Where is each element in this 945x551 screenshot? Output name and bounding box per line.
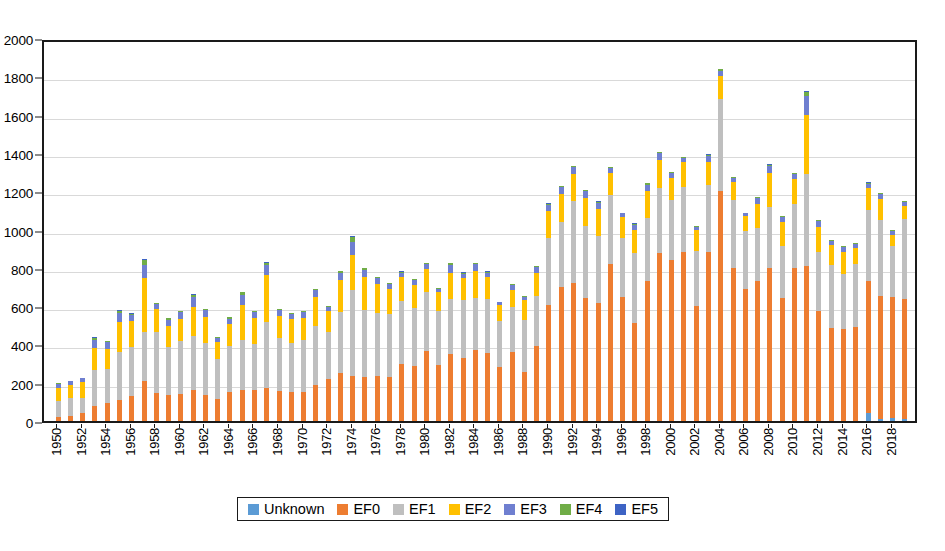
x-tick-label: 1990 — [540, 428, 555, 456]
bar-segment-EF2 — [461, 278, 466, 300]
bar-segment-EF0 — [227, 392, 232, 421]
x-tick-label: 2010 — [785, 428, 800, 456]
bar-segment-EF3 — [313, 290, 318, 297]
bar-segment-EF2 — [399, 277, 404, 301]
bar-segment-EF2 — [473, 271, 478, 298]
bar-segment-EF3 — [546, 205, 551, 212]
bar-segment-EF2 — [841, 252, 846, 274]
bar-segment-EF3 — [203, 310, 208, 317]
bar-segment-EF2 — [362, 277, 367, 310]
x-tick-label: 1958 — [147, 428, 162, 456]
legend-item-EF2[interactable]: EF2 — [449, 501, 492, 517]
bar-segment-EF2 — [706, 162, 711, 185]
y-tick-label: 2000 — [4, 33, 33, 48]
bar-2002 — [694, 226, 699, 421]
bar-segment-EF1 — [559, 222, 564, 287]
bar-segment-EF0 — [240, 390, 245, 421]
bar-1994 — [596, 201, 601, 421]
x-tick-label: 2000 — [663, 428, 678, 456]
bar-segment-EF2 — [375, 284, 380, 313]
bar-segment-EF1 — [522, 320, 527, 372]
bar-segment-EF2 — [497, 305, 502, 321]
bar-segment-EF2 — [350, 255, 355, 289]
bar-segment-EF2 — [816, 227, 821, 252]
bar-segment-EF1 — [780, 246, 785, 299]
bar-segment-EF1 — [56, 401, 61, 417]
bar-segment-EF1 — [816, 252, 821, 311]
bar-1971 — [313, 289, 318, 421]
bar-segment-EF1 — [596, 236, 601, 303]
legend-item-EF1[interactable]: EF1 — [393, 501, 436, 517]
legend-item-EF0[interactable]: EF0 — [337, 501, 380, 517]
bar-segment-EF1 — [338, 312, 343, 373]
bar-segment-EF0 — [571, 283, 576, 421]
bar-segment-EF1 — [92, 370, 97, 405]
bar-1986 — [497, 302, 502, 421]
bar-segment-EF0 — [596, 303, 601, 421]
x-tick-label: 2018 — [884, 428, 899, 456]
bar-segment-EF0 — [657, 253, 662, 421]
bar-segment-EF0 — [816, 311, 821, 421]
bar-1995 — [608, 167, 613, 421]
bar-segment-EF2 — [166, 326, 171, 347]
x-tick-label: 1992 — [565, 428, 580, 456]
legend-swatch-icon — [337, 504, 348, 515]
bar-segment-EF0 — [534, 346, 539, 421]
x-tick-label: 1956 — [123, 428, 138, 456]
bar-2000 — [669, 172, 674, 421]
bar-2001 — [681, 157, 686, 421]
bar-1950 — [56, 383, 61, 421]
bar-segment-EF2 — [252, 318, 257, 345]
bar-2019 — [902, 201, 907, 421]
legend-item-EF5[interactable]: EF5 — [615, 501, 658, 517]
bar-segment-EF0 — [522, 372, 527, 421]
bar-1976 — [375, 277, 380, 421]
bar-segment-EF0 — [485, 353, 490, 421]
bar-segment-EF2 — [866, 188, 871, 210]
bar-segment-EF2 — [559, 194, 564, 222]
bar-segment-EF2 — [436, 292, 441, 311]
bar-segment-EF2 — [792, 179, 797, 204]
bar-segment-EF1 — [669, 200, 674, 260]
bar-segment-EF3 — [804, 96, 809, 114]
bar-segment-EF0 — [743, 289, 748, 421]
bar-segment-EF0 — [350, 376, 355, 421]
bar-segment-EF2 — [117, 322, 122, 352]
bar-segment-EF1 — [718, 99, 723, 191]
x-tick-label: 1982 — [442, 428, 457, 456]
y-tick-mark — [35, 193, 42, 194]
bar-segment-EF1 — [166, 347, 171, 395]
x-tick-label: 1966 — [245, 428, 260, 456]
bar-1999 — [657, 152, 662, 421]
bar-segment-EF0 — [829, 328, 834, 421]
bar-segment-EF0 — [399, 364, 404, 421]
bar-segment-EF2 — [412, 285, 417, 308]
bar-1991 — [559, 186, 564, 421]
bar-segment-EF1 — [902, 219, 907, 299]
bar-2004 — [718, 69, 723, 421]
y-tick-mark — [35, 269, 42, 270]
bar-1968 — [277, 309, 282, 421]
y-tick-mark — [35, 423, 42, 424]
legend-label: Unknown — [264, 501, 324, 517]
legend-swatch-icon — [615, 504, 626, 515]
bar-1987 — [510, 284, 515, 421]
bar-1980 — [424, 263, 429, 421]
bar-1951 — [68, 381, 73, 421]
bar-segment-EF1 — [68, 398, 73, 416]
bar-segment-EF0 — [68, 416, 73, 421]
legend-item-EF3[interactable]: EF3 — [504, 501, 547, 517]
x-tick-label: 1994 — [589, 428, 604, 456]
bar-2018 — [890, 230, 895, 421]
bar-segment-EF0 — [497, 367, 502, 421]
bar-segment-EF1 — [142, 332, 147, 381]
bar-segment-EF1 — [510, 307, 515, 352]
legend-item-EF4[interactable]: EF4 — [560, 501, 603, 517]
legend-item-Unknown[interactable]: Unknown — [248, 501, 324, 517]
bar-segment-EF0 — [142, 381, 147, 421]
bar-1988 — [522, 296, 527, 421]
bar-segment-EF2 — [191, 307, 196, 336]
bar-1965 — [240, 292, 245, 421]
bar-segment-EF3 — [596, 203, 601, 210]
bar-segment-EF2 — [780, 222, 785, 246]
